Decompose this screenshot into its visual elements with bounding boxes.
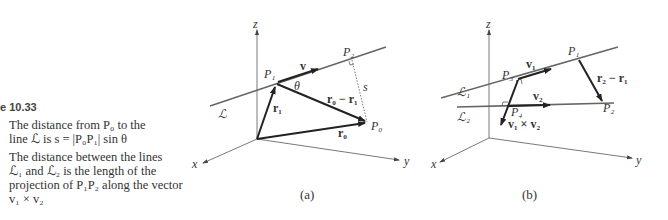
y-axis-label: y xyxy=(403,154,410,168)
vector-r0-minus-r1-label: r₀ − r₁ xyxy=(327,92,358,106)
vector-v1-label: v₁ xyxy=(526,57,536,71)
x-axis xyxy=(203,139,257,163)
diagram-canvas: z x y ℒ s P₁ P₂ P₀ v θ r₁ r₀ − r₁ r₀ (a)… xyxy=(0,0,668,220)
point-P3-label: P₃ xyxy=(501,68,514,82)
z-axis-label: z xyxy=(485,17,491,31)
x-axis-label: x xyxy=(430,157,437,171)
distance-s-label: s xyxy=(363,80,368,94)
vector-r1-label: r₁ xyxy=(273,101,282,115)
z-axis-label: z xyxy=(252,17,258,31)
figure-a-sublabel: (a) xyxy=(300,187,314,202)
axes-a xyxy=(203,30,399,163)
vector-r0 xyxy=(257,123,365,139)
x-axis xyxy=(440,138,489,162)
vector-r0-label: r₀ xyxy=(338,126,347,140)
point-P1-label: P₁ xyxy=(263,67,276,81)
point-P2-label: P₂ xyxy=(602,101,615,115)
line-L1-label: ℒ₁ xyxy=(457,85,470,99)
figure-b-sublabel: (b) xyxy=(522,187,537,202)
vector-v2-label: v₂ xyxy=(533,89,543,103)
figure-a: z x y ℒ s P₁ P₂ P₀ v θ r₁ r₀ − r₁ r₀ (a) xyxy=(191,17,410,202)
y-axis xyxy=(257,139,399,160)
y-axis-label: y xyxy=(635,153,642,167)
point-P1-label: P₁ xyxy=(567,44,580,58)
vector-r2-minus-r1-label: r₂ − r₁ xyxy=(597,71,628,85)
point-P0-label: P₀ xyxy=(370,119,383,133)
figure-b: z x y ℒ₁ ℒ₂ P₃ P₄ P₁ P₂ v₁ v₂ r₂ − r₁ v₁… xyxy=(430,17,642,202)
angle-theta-label: θ xyxy=(294,79,300,93)
vector-v-label: v xyxy=(300,59,306,73)
x-axis-label: x xyxy=(191,157,198,171)
line-L-label: ℒ xyxy=(218,107,227,121)
y-axis xyxy=(489,138,632,158)
line-L2-label: ℒ₂ xyxy=(457,110,470,124)
right-angle-mark xyxy=(349,61,354,65)
vector-v1-cross-v2-label: v₁ × v₂ xyxy=(508,117,540,131)
point-P2-label: P₂ xyxy=(342,45,355,59)
